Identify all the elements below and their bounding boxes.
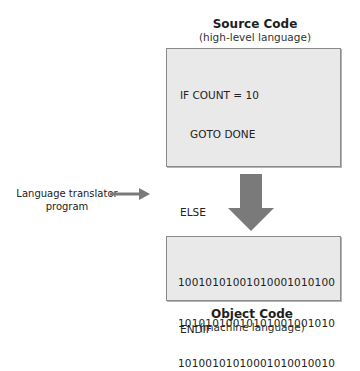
right-arrow-icon <box>110 188 150 200</box>
source-code-heading: Source Code <box>165 17 345 31</box>
object-code-title: Object Code (machine language) <box>162 307 342 334</box>
translator-label-line1: Language translator <box>12 188 122 201</box>
code-line: GOTO DONE <box>180 128 259 141</box>
translator-label: Language translator program <box>12 188 122 213</box>
object-code-box: 10010101001010001010100 1010101001010100… <box>166 236 341 301</box>
translator-label-line2: program <box>12 201 122 214</box>
binary-line: 10010101001010001010100 <box>178 276 335 290</box>
down-arrow-icon <box>228 174 274 232</box>
object-code-heading: Object Code <box>162 307 342 321</box>
object-code-subtitle: (machine language) <box>162 321 342 334</box>
source-code-box: IF COUNT = 10 GOTO DONE ELSE GOTO AGAIN … <box>166 48 341 167</box>
source-code-subtitle: (high-level language) <box>165 31 345 44</box>
code-line: IF COUNT = 10 <box>180 89 259 102</box>
source-code-title: Source Code (high-level language) <box>165 17 345 44</box>
binary-line: 10100101010001010010010 <box>178 357 335 371</box>
